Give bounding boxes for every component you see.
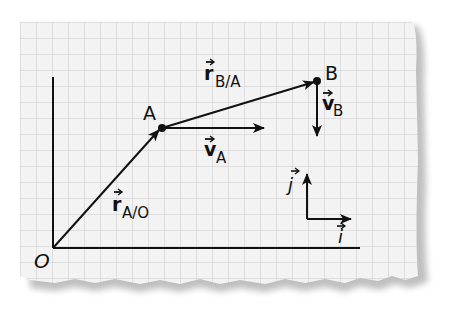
point-a [158,124,166,132]
svg-text:B/A: B/A [215,73,241,91]
diagram-canvas: O A B r A/O r B/A v A v B j i [0,0,450,309]
svg-text:i: i [338,226,343,247]
point-b [313,77,321,85]
svg-text:B: B [333,102,343,120]
svg-text:r: r [112,193,122,215]
svg-text:r: r [204,62,214,84]
svg-text:A/O: A/O [122,204,149,222]
svg-text:A: A [216,149,227,167]
label-point-b: B [325,62,338,84]
label-origin: O [34,249,50,273]
label-point-a: A [143,102,156,124]
